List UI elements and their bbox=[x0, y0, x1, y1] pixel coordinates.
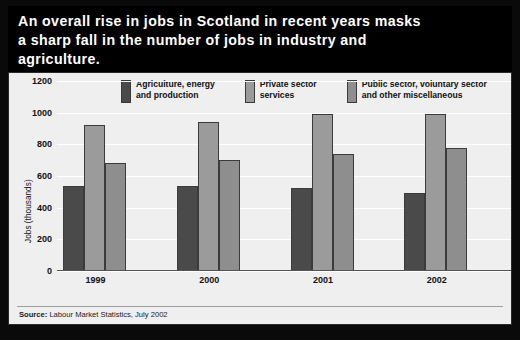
bar[interactable] bbox=[291, 188, 312, 271]
bar[interactable] bbox=[63, 186, 84, 272]
bar-group: 2001 bbox=[285, 81, 399, 271]
x-axis-tick-label: 1999 bbox=[63, 275, 128, 285]
plot-area: 020040060080010001200 1999200020012002 bbox=[57, 81, 512, 271]
source-text: Labour Market Statistics, July 2002 bbox=[47, 310, 167, 319]
figure: An overall rise in jobs in Scotland in r… bbox=[0, 0, 520, 340]
figure-title: An overall rise in jobs in Scotland in r… bbox=[8, 6, 512, 72]
bar[interactable] bbox=[312, 114, 333, 271]
x-axis-tick-label: 2000 bbox=[177, 275, 242, 285]
title-line-1: An overall rise in jobs in Scotland in r… bbox=[18, 12, 504, 31]
bar-group: 2000 bbox=[171, 81, 285, 271]
y-axis-title: Jobs (thousands) bbox=[23, 179, 33, 243]
bar-group: 1999 bbox=[57, 81, 171, 271]
bar[interactable] bbox=[446, 148, 467, 271]
y-axis-tick-label: 0 bbox=[47, 266, 52, 276]
bar-groups: 1999200020012002 bbox=[57, 81, 512, 271]
bar[interactable] bbox=[219, 160, 240, 271]
gridline bbox=[57, 271, 512, 272]
y-axis-tick-label: 400 bbox=[37, 203, 52, 213]
bar[interactable] bbox=[177, 186, 198, 271]
y-axis-tick-label: 600 bbox=[37, 171, 52, 181]
x-axis-tick-label: 2002 bbox=[404, 275, 469, 285]
y-axis-tick-label: 200 bbox=[37, 234, 52, 244]
chart-panel: Agriculture, energy and productionPrivat… bbox=[8, 72, 512, 325]
bar[interactable] bbox=[84, 125, 105, 271]
bar[interactable] bbox=[105, 163, 126, 271]
y-axis-tick-label: 800 bbox=[37, 139, 52, 149]
title-line-3: agriculture. bbox=[18, 50, 504, 69]
y-axis-tick-label: 1200 bbox=[32, 76, 52, 86]
x-axis-tick-label: 2001 bbox=[291, 275, 356, 285]
bar[interactable] bbox=[333, 154, 354, 271]
bar[interactable] bbox=[425, 114, 446, 271]
bar[interactable] bbox=[198, 122, 219, 271]
source-prefix: Source: bbox=[19, 310, 47, 319]
y-axis-tick-label: 1000 bbox=[32, 108, 52, 118]
source-divider bbox=[17, 306, 503, 307]
title-line-2: a sharp fall in the number of jobs in in… bbox=[18, 31, 504, 50]
bar-group: 2002 bbox=[398, 81, 512, 271]
bar[interactable] bbox=[404, 193, 425, 271]
source-note: Source: Labour Market Statistics, July 2… bbox=[19, 310, 168, 319]
x-axis-line bbox=[57, 270, 512, 271]
